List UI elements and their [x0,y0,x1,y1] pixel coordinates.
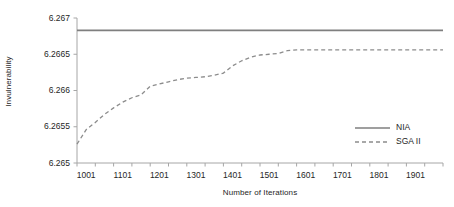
x-axis-title: Number of Iterations [77,188,443,197]
x-axis-tick-label: 1001 [66,170,106,180]
x-axis-tick-label: 1901 [396,170,436,180]
x-axis-tick-label: 1501 [249,170,289,180]
x-axis-tick-label: 1701 [322,170,362,180]
y-axis-ticks [74,18,78,163]
x-axis-tick-label: 1101 [103,170,143,180]
legend-marks [355,128,390,142]
x-axis-tick-label: 1301 [176,170,216,180]
y-axis-tick-label: 6.265 [24,158,70,168]
data-series [77,30,443,144]
y-axis-tick-label: 6.2655 [24,121,70,131]
x-axis-tick-label: 1401 [213,170,253,180]
y-axis-tick-label: 6.2665 [24,49,70,59]
chart-figure: Invulnerability Number of Iterations 6.2… [0,0,454,207]
axes [74,18,444,167]
y-axis-title: Invulnerability [0,0,16,163]
legend-label-sga-ii: SGA II [396,136,421,146]
series-line-sga-ii [77,50,443,144]
legend-label-nia: NIA [396,122,410,132]
y-axis-tick-label: 6.266 [24,85,70,95]
x-axis-tick-label: 1201 [139,170,179,180]
x-axis-ticks [77,163,443,167]
y-axis-tick-label: 6.267 [24,13,70,23]
y-axis-title-text: Invulnerability [4,56,13,106]
x-axis-tick-label: 1801 [359,170,399,180]
x-axis-tick-label: 1601 [286,170,326,180]
